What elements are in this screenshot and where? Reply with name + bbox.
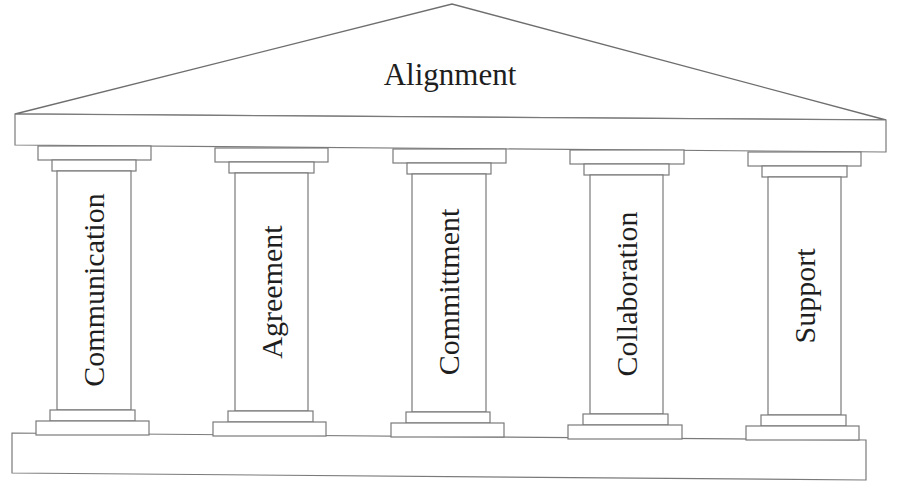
pillar-base-top [50, 410, 135, 421]
pillar-agreement: Agreement [213, 148, 328, 436]
pillar-capital-top [393, 149, 506, 163]
pillar-capital-top [748, 152, 861, 166]
temple-diagram: Alignment Communication Agreement Commit… [0, 0, 897, 492]
pillar-capital-top [38, 146, 151, 160]
pillar-base-top [406, 412, 490, 423]
pillar-capital-bottom [407, 163, 491, 174]
pillar-committment: Committment [391, 149, 506, 437]
pillar-base-top [583, 414, 668, 425]
pillar-label: Support [788, 248, 821, 344]
pillar-capital-top [215, 148, 328, 162]
pillar-base-bottom [746, 426, 859, 440]
pillar-base-top [228, 411, 313, 422]
pillar-label: Agreement [255, 225, 288, 359]
pillar-capital-bottom [229, 162, 314, 173]
pillar-capital-top [570, 150, 684, 164]
pillar-label: Committment [432, 208, 465, 375]
pillar-base-bottom [568, 425, 682, 439]
pillar-base-top [761, 415, 846, 426]
pillar-base-bottom [391, 423, 504, 437]
pillar-capital-bottom [52, 160, 136, 171]
roof-label: Alignment [384, 57, 517, 92]
pillar-base-bottom [36, 421, 149, 435]
pillar-communication: Communication [36, 146, 151, 435]
pillar-label: Collaboration [610, 212, 643, 377]
pillar-support: Support [746, 152, 861, 440]
pillar-collaboration: Collaboration [568, 150, 684, 439]
pillar-label: Communication [77, 193, 110, 386]
base-platform [12, 433, 866, 480]
pillar-base-bottom [213, 422, 326, 436]
pillar-capital-bottom [762, 166, 847, 177]
pillar-capital-bottom [584, 164, 669, 175]
